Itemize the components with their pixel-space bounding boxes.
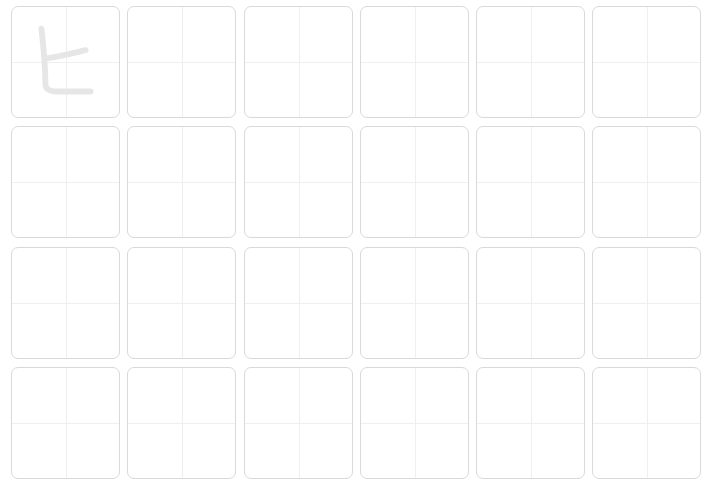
writing-practice-sheet	[0, 0, 709, 492]
horizontal-guide-line	[477, 303, 584, 304]
practice-cell[interactable]	[360, 247, 469, 359]
practice-cell[interactable]	[244, 247, 353, 359]
horizontal-guide-line	[477, 182, 584, 183]
horizontal-guide-line	[12, 182, 119, 183]
horizontal-guide-line	[361, 423, 468, 424]
practice-cell[interactable]	[476, 6, 585, 118]
horizontal-guide-line	[361, 62, 468, 63]
practice-cell[interactable]	[592, 367, 701, 479]
practice-cell[interactable]	[592, 247, 701, 359]
practice-cell[interactable]	[360, 367, 469, 479]
horizontal-guide-line	[361, 303, 468, 304]
practice-cell[interactable]	[127, 6, 236, 118]
horizontal-guide-line	[593, 303, 700, 304]
horizontal-guide-line	[128, 182, 235, 183]
horizontal-guide-line	[128, 423, 235, 424]
horizontal-guide-line	[477, 62, 584, 63]
practice-cell[interactable]	[11, 6, 120, 118]
practice-cell[interactable]	[476, 367, 585, 479]
practice-cell[interactable]	[244, 126, 353, 238]
practice-cell[interactable]	[244, 6, 353, 118]
horizontal-guide-line	[128, 303, 235, 304]
horizontal-guide-line	[593, 62, 700, 63]
horizontal-guide-line	[12, 303, 119, 304]
horizontal-guide-line	[12, 423, 119, 424]
practice-cell[interactable]	[11, 247, 120, 359]
practice-cell[interactable]	[127, 126, 236, 238]
practice-cell[interactable]	[127, 367, 236, 479]
practice-cell[interactable]	[592, 6, 701, 118]
practice-cell[interactable]	[11, 367, 120, 479]
practice-cell[interactable]	[592, 126, 701, 238]
horizontal-guide-line	[361, 182, 468, 183]
horizontal-guide-line	[477, 423, 584, 424]
practice-cell[interactable]	[360, 126, 469, 238]
horizontal-guide-line	[128, 62, 235, 63]
horizontal-guide-line	[245, 62, 352, 63]
practice-cell[interactable]	[476, 126, 585, 238]
practice-cell[interactable]	[476, 247, 585, 359]
practice-cell[interactable]	[127, 247, 236, 359]
practice-cell[interactable]	[11, 126, 120, 238]
horizontal-guide-line	[245, 423, 352, 424]
horizontal-guide-line	[245, 182, 352, 183]
trace-character-hi	[12, 7, 119, 117]
practice-cell[interactable]	[244, 367, 353, 479]
practice-cell[interactable]	[360, 6, 469, 118]
horizontal-guide-line	[593, 182, 700, 183]
horizontal-guide-line	[593, 423, 700, 424]
horizontal-guide-line	[245, 303, 352, 304]
